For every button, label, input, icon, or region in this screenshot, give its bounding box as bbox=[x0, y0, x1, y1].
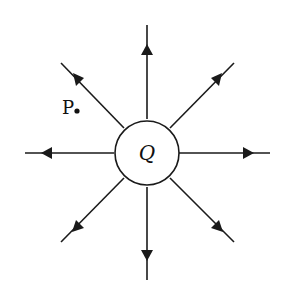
arrow-right-icon bbox=[243, 147, 254, 159]
point-p-dot bbox=[74, 108, 79, 113]
field-diagram: Q P bbox=[0, 0, 286, 293]
arrow-down-icon bbox=[141, 250, 153, 261]
field-line-sw bbox=[61, 178, 124, 242]
charge-label: Q bbox=[139, 141, 155, 165]
arrow-up-icon bbox=[141, 44, 153, 55]
field-line-nw bbox=[61, 63, 124, 128]
field-line-se bbox=[170, 178, 234, 242]
point-label: P bbox=[62, 97, 74, 118]
field-line-ne bbox=[170, 63, 234, 128]
arrow-left-icon bbox=[41, 147, 52, 159]
arrow-sw-icon bbox=[72, 220, 84, 232]
